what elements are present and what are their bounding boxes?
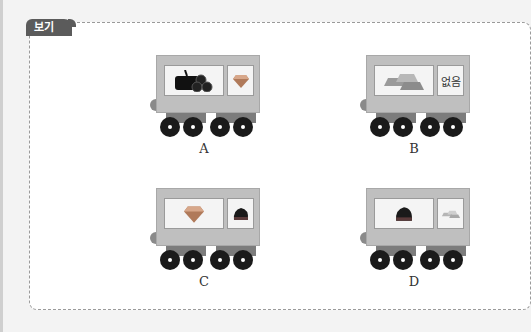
- compartment-right: [227, 65, 254, 96]
- page-edge: [0, 0, 3, 332]
- log-icon: [173, 70, 215, 92]
- car-body: [156, 55, 260, 113]
- wheel: [370, 250, 390, 270]
- compartment-right: [227, 198, 254, 229]
- compartment-left: [164, 65, 224, 96]
- option-label: D: [358, 274, 470, 289]
- train-car-d[interactable]: D: [358, 188, 470, 298]
- option-label: C: [148, 274, 260, 289]
- wheel: [160, 250, 180, 270]
- wheel: [233, 250, 253, 270]
- train-car-a[interactable]: A: [148, 55, 260, 165]
- wheel: [183, 117, 203, 137]
- compartment-right: 없음: [437, 65, 464, 96]
- car-body: 없음: [366, 55, 470, 113]
- wheel: [393, 250, 413, 270]
- wheel: [210, 117, 230, 137]
- wheel: [443, 117, 463, 137]
- wheel: [370, 117, 390, 137]
- wheel: [233, 117, 253, 137]
- train-car-c[interactable]: C: [148, 188, 260, 298]
- wheel: [393, 117, 413, 137]
- wheel: [183, 250, 203, 270]
- coal-icon: [232, 206, 250, 222]
- compartment-left: [374, 198, 434, 229]
- wheel: [443, 250, 463, 270]
- car-body: [366, 188, 470, 246]
- compartment-left: [374, 65, 434, 96]
- wheel: [420, 250, 440, 270]
- diamond-icon: [233, 74, 249, 88]
- coal-icon: [393, 205, 415, 223]
- option-label: A: [148, 141, 260, 156]
- none-text: 없음: [441, 73, 461, 89]
- example-tag: 보기: [26, 19, 72, 36]
- car-body: [156, 188, 260, 246]
- train-car-b[interactable]: 없음 B: [358, 55, 470, 165]
- compartment-right: [437, 198, 464, 229]
- diamond-icon: [184, 205, 204, 223]
- wheel: [420, 117, 440, 137]
- compartment-left: [164, 198, 224, 229]
- option-label: B: [358, 141, 470, 156]
- gold-bars-icon: [382, 70, 426, 92]
- wheel: [210, 250, 230, 270]
- wheel: [160, 117, 180, 137]
- gold-bars-icon: [441, 209, 461, 219]
